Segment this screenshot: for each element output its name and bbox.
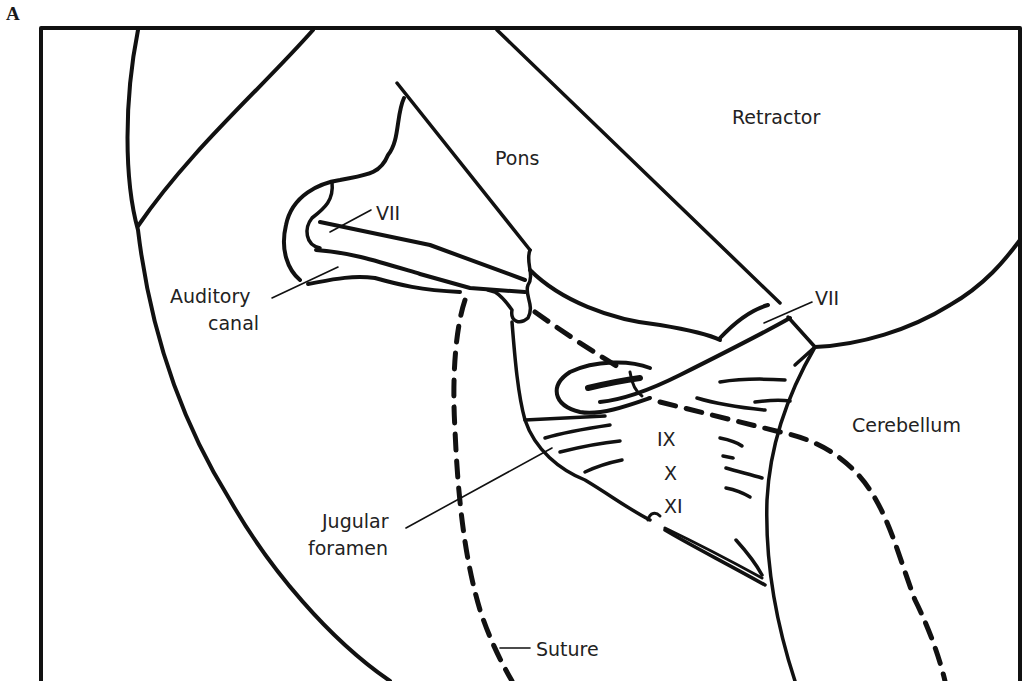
nerve-vii-upper-top [320, 222, 525, 280]
bundle-stump [488, 250, 531, 322]
jugular-region-top [525, 416, 605, 420]
label-canal: canal [208, 312, 259, 334]
panel-letter: A [6, 3, 20, 24]
label-auditory: Auditory [170, 285, 251, 307]
jugular-notch [648, 513, 660, 520]
retractor-edge [497, 30, 780, 303]
dashed-outlines [454, 300, 945, 681]
outer-curve [128, 30, 391, 681]
cerebellum-upper-curve [815, 240, 1020, 347]
label-retractor: Retractor [732, 106, 820, 128]
figure-frame [41, 28, 1020, 681]
label-vii-lower: VII [815, 287, 839, 309]
label-jugular: Jugular [321, 510, 389, 532]
retractor-tip [788, 317, 815, 365]
label-foramen: foramen [308, 537, 388, 559]
label-nerve-xi: XI [664, 495, 683, 517]
anatomical-diagram: A [0, 0, 1022, 681]
label-nerve-x: X [664, 462, 677, 484]
cerebellum-boundary [767, 347, 815, 681]
label-suture: Suture [536, 638, 599, 660]
upper-diagonal [138, 30, 313, 226]
label-pons: Pons [495, 147, 539, 169]
label-nerve-ix: IX [657, 428, 676, 450]
label-cerebellum: Cerebellum [852, 414, 961, 436]
label-vii-upper: VII [376, 202, 400, 224]
nerve-vii-upper-bottom [316, 250, 525, 292]
